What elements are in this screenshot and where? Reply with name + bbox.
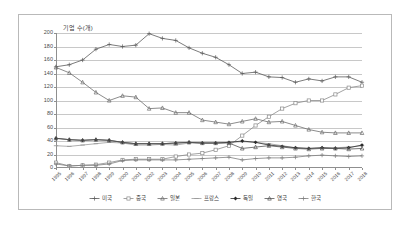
x-axis-tick-label: 2000 — [117, 171, 129, 182]
x-axis-tick-label: 2015 — [317, 171, 329, 182]
x-axis-tick-label: 1998 — [91, 171, 103, 182]
series-미국 — [54, 32, 364, 85]
legend-item-프랑스[interactable]: 프랑스 — [191, 195, 219, 202]
legend-marker-icon — [191, 195, 202, 202]
y-axis-tick-label: 0 — [50, 165, 53, 171]
x-axis-tick-label: 2010 — [250, 171, 262, 182]
series-일본 — [54, 65, 364, 134]
legend-label: 일본 — [170, 196, 180, 202]
plot-area: 0204060801001201401601802001995199619971… — [56, 33, 362, 168]
legend-marker-icon — [123, 195, 134, 202]
x-axis-tick-label: 2006 — [197, 171, 209, 182]
x-axis-tick-label: 2001 — [131, 171, 143, 182]
x-axis-tick — [256, 168, 257, 170]
x-axis-tick-label: 2003 — [157, 171, 169, 182]
x-axis-tick-label: 2007 — [210, 171, 222, 182]
series-layer — [56, 33, 362, 168]
x-axis-tick — [269, 168, 270, 170]
y-axis-title: 기업 수(개) — [63, 23, 93, 32]
y-axis-tick-label: 40 — [47, 138, 53, 144]
x-axis-tick — [216, 168, 217, 170]
x-axis-tick — [136, 168, 137, 170]
x-axis-tick-label: 1996 — [64, 171, 76, 182]
x-axis-tick — [83, 168, 84, 170]
legend-marker-icon — [264, 195, 275, 202]
x-axis-tick-label: 2004 — [170, 171, 182, 182]
x-axis-tick — [309, 168, 310, 170]
y-axis-tick-label: 140 — [44, 71, 53, 77]
y-axis-tick-label: 20 — [47, 152, 53, 158]
series-한국 — [54, 153, 364, 168]
legend-label: 독일 — [243, 196, 253, 202]
x-axis-tick-label: 1995 — [51, 171, 63, 182]
y-axis-tick-label: 80 — [47, 111, 53, 117]
legend-marker-icon — [298, 195, 309, 202]
legend-item-영국[interactable]: 영국 — [264, 195, 287, 202]
x-axis-tick-label: 2013 — [290, 171, 302, 182]
x-axis-tick-label: 2002 — [144, 171, 156, 182]
legend-item-한국[interactable]: 한국 — [298, 195, 321, 202]
x-axis-tick — [229, 168, 230, 170]
x-axis-tick-label: 2011 — [264, 171, 275, 182]
x-axis-tick — [349, 168, 350, 170]
x-axis-tick-label: 2008 — [224, 171, 236, 182]
x-axis-tick — [362, 168, 363, 170]
y-axis-tick-label: 100 — [44, 98, 53, 104]
x-axis-tick-label: 2005 — [184, 171, 196, 182]
x-axis-tick-label: 2012 — [277, 171, 289, 182]
legend-label: 프랑스 — [204, 196, 219, 202]
y-axis-tick-label: 180 — [44, 44, 53, 50]
x-axis-tick — [123, 168, 124, 170]
legend-label: 미국 — [102, 196, 112, 202]
legend-marker-icon — [157, 195, 168, 202]
x-axis-tick-label: 2014 — [304, 171, 316, 182]
x-axis-tick-label: 1997 — [77, 171, 89, 182]
legend-item-독일[interactable]: 독일 — [230, 195, 253, 202]
x-axis-tick-label: 2009 — [237, 171, 249, 182]
legend-label: 중국 — [136, 196, 146, 202]
legend-label: 영국 — [277, 196, 287, 202]
chart-figure: 기업 수(개) 02040608010012014016018020019951… — [18, 14, 392, 210]
legend-item-일본[interactable]: 일본 — [157, 195, 180, 202]
x-axis-tick — [56, 168, 57, 170]
x-axis-tick-label: 2016 — [330, 171, 342, 182]
legend-marker-icon — [89, 195, 100, 202]
x-axis-tick-label: 2018 — [357, 171, 369, 182]
y-axis-tick-label: 160 — [44, 57, 53, 63]
chart-legend: 미국중국일본프랑스독일영국한국 — [19, 195, 391, 202]
y-axis-tick-label: 200 — [44, 30, 53, 36]
x-axis-tick — [176, 168, 177, 170]
x-axis-tick-label: 2017 — [343, 171, 355, 182]
x-axis-tick-label: 1999 — [104, 171, 116, 182]
y-axis-tick-label: 120 — [44, 84, 53, 90]
legend-label: 한국 — [311, 196, 321, 202]
legend-item-중국[interactable]: 중국 — [123, 195, 146, 202]
legend-item-미국[interactable]: 미국 — [89, 195, 112, 202]
x-axis-tick — [96, 168, 97, 170]
y-axis-tick-label: 60 — [47, 125, 53, 131]
legend-marker-icon — [230, 195, 241, 202]
